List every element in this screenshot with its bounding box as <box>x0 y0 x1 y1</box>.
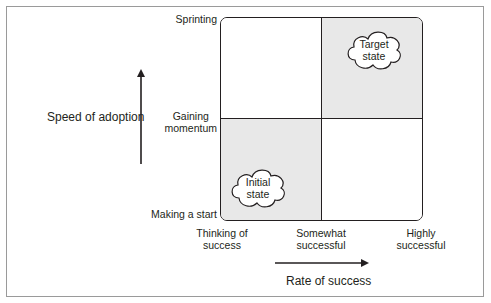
x-axis-title: Rate of success <box>286 274 371 288</box>
x-level-right-line2: successful <box>376 239 466 251</box>
quadrant-bottom-right <box>322 119 423 220</box>
x-level-right-line1: Highly <box>376 227 466 239</box>
target-state-line1: Target <box>359 38 388 50</box>
x-level-left-line1: Thinking of <box>177 227 267 239</box>
y-axis-title: Speed of adoption <box>47 110 144 124</box>
x-level-somewhat-successful: Somewhat successful <box>276 227 366 251</box>
y-level-gaining-line1: Gaining <box>164 110 217 122</box>
x-level-left-line2: success <box>177 239 267 251</box>
x-level-middle-line1: Somewhat <box>276 227 366 239</box>
initial-state-line1: Initial <box>246 176 271 188</box>
target-state-line2: state <box>363 50 386 62</box>
y-level-gaining-momentum: Gaining momentum <box>164 110 217 134</box>
y-level-gaining-line2: momentum <box>164 122 217 134</box>
x-level-middle-line2: successful <box>276 239 366 251</box>
initial-state-line2: state <box>247 188 270 200</box>
y-level-making-a-start: Making a start <box>151 208 217 220</box>
x-level-highly-successful: Highly successful <box>376 227 466 251</box>
quadrant-top-left <box>221 18 322 119</box>
target-state-cloud: Targetstate <box>343 26 405 74</box>
initial-state-cloud: Initialstate <box>227 164 289 212</box>
y-level-sprinting: Sprinting <box>176 13 217 25</box>
x-level-thinking-of-success: Thinking of success <box>177 227 267 251</box>
x-axis-arrow-icon <box>275 258 370 268</box>
